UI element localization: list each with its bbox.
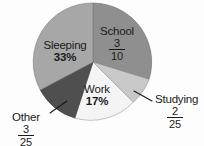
slice-label-sleeping-name: Sleeping	[36, 40, 94, 52]
slice-label-school-name: School	[98, 26, 136, 38]
slice-label-work: Work 17%	[77, 84, 117, 107]
slice-label-school-fraction: 3 10	[98, 38, 136, 62]
fraction-numerator: 3	[18, 124, 34, 135]
slice-label-sleeping-value: 33%	[36, 52, 94, 64]
fraction-numerator: 3	[109, 38, 125, 49]
pie-chart-figure: Sleeping 33% School 3 10 Work 17% Studyi…	[0, 0, 204, 146]
slice-label-work-name: Work	[77, 84, 117, 96]
slice-label-studying: Studying 2 25	[155, 94, 204, 130]
fraction-numerator: 2	[167, 106, 183, 117]
slice-label-work-value: 17%	[77, 96, 117, 108]
slice-label-studying-name: Studying	[155, 94, 204, 106]
slice-label-other: Other 3 25	[4, 112, 48, 146]
slice-label-sleeping: Sleeping 33%	[36, 40, 94, 63]
fraction-denominator: 25	[18, 137, 34, 146]
slice-label-studying-fraction: 2 25	[155, 106, 195, 130]
fraction-denominator: 25	[167, 119, 183, 130]
slice-label-other-name: Other	[4, 112, 48, 124]
slice-label-school: School 3 10	[98, 26, 136, 62]
slice-label-other-fraction: 3 25	[4, 124, 48, 146]
fraction-denominator: 10	[109, 51, 125, 62]
